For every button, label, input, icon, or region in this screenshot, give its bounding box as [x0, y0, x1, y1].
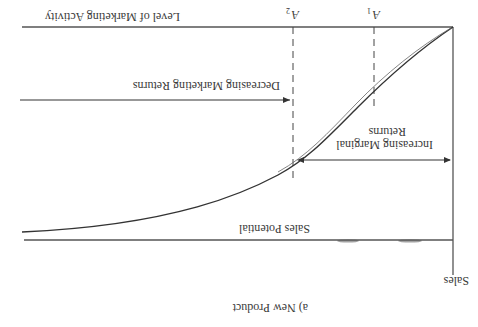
figure-caption: a) New Product: [232, 301, 308, 315]
svg-text:2: 2: [286, 6, 290, 15]
scan-smudge: [398, 239, 422, 242]
a1-marker-label: A 1: [367, 6, 381, 22]
a2-marker-label: A 2: [286, 6, 300, 22]
increasing-returns-label-2: Returns: [368, 125, 406, 139]
sales-potential-label: Sales Potential: [238, 222, 310, 236]
svg-text:A: A: [372, 8, 381, 22]
decreasing-returns-arrow: [20, 97, 290, 103]
svg-text:A: A: [291, 8, 300, 22]
decreasing-returns-label: Decreasing Marketing Returns: [132, 79, 280, 93]
x-axis-label: Level of Marketing Activity: [45, 10, 180, 24]
y-axis-label: Sales: [443, 274, 469, 288]
increasing-returns-label-1: Increasing Marginal: [336, 138, 433, 152]
scan-smudge: [337, 239, 359, 242]
diagram-stage: a) New Product Sales Sales Potential Lev…: [0, 0, 478, 327]
svg-text:1: 1: [367, 6, 371, 15]
increasing-returns-arrow: [297, 157, 451, 163]
sales-response-diagram: a) New Product Sales Sales Potential Lev…: [0, 0, 478, 327]
